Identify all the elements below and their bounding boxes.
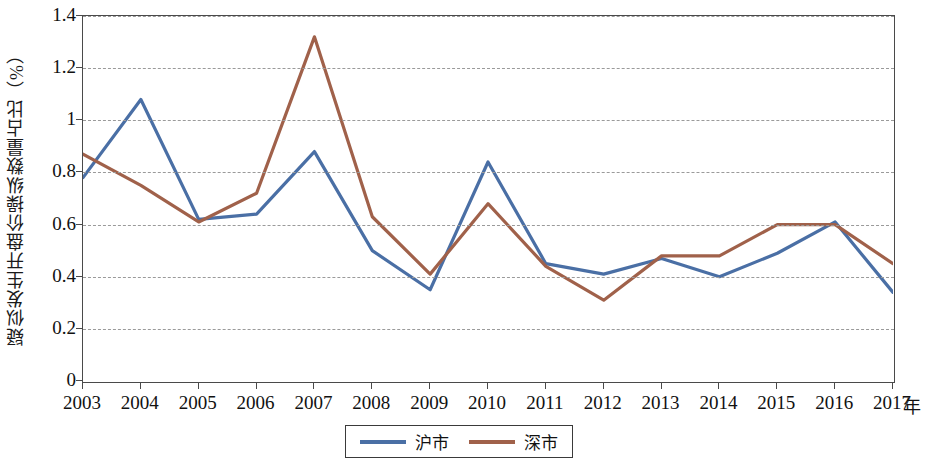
x-axis-tick-mark — [718, 383, 719, 389]
gridline — [83, 172, 894, 173]
gridline — [83, 16, 894, 17]
x-axis-unit-label: 年 — [903, 392, 921, 418]
y-axis-tick-label: 0.6 — [52, 213, 76, 235]
x-axis-tick-label: 2015 — [757, 392, 795, 414]
x-axis-tick-label: 2013 — [642, 392, 680, 414]
legend-item-label: 沪市 — [415, 429, 449, 454]
x-axis-tick-label: 2012 — [584, 392, 622, 414]
gridline — [83, 277, 894, 278]
x-axis-tick-label: 2006 — [237, 392, 275, 414]
series-line-深市 — [83, 37, 893, 300]
x-axis-tick-mark — [603, 383, 604, 389]
x-axis-tick-mark — [776, 383, 777, 389]
gridline — [83, 120, 894, 121]
x-axis-tick-label: 2009 — [410, 392, 448, 414]
x-axis-tick-labels: 2003200420052006200720082009201020112012… — [82, 392, 895, 420]
x-axis-tick-label: 2003 — [63, 392, 101, 414]
legend-item-label: 深市 — [524, 429, 558, 454]
series-lines — [83, 16, 893, 381]
y-axis-tick-label: 1.2 — [52, 56, 76, 78]
gridline — [83, 225, 894, 226]
x-axis-tick-mark — [82, 383, 83, 389]
chart-legend: 沪市深市 — [345, 425, 573, 458]
x-axis-tick-mark — [256, 383, 257, 389]
x-axis-tick-mark — [892, 383, 893, 389]
x-axis-tick-label: 2010 — [468, 392, 506, 414]
legend-color-swatch — [360, 440, 406, 444]
x-axis-tick-label: 2008 — [352, 392, 390, 414]
y-axis-tick-label: 0.8 — [52, 160, 76, 182]
y-axis-tick-label: 0.4 — [52, 265, 76, 287]
x-axis-tick-mark — [313, 383, 314, 389]
gridline — [83, 68, 894, 69]
x-axis-tick-mark — [371, 383, 372, 389]
x-axis-tick-mark — [545, 383, 546, 389]
y-axis-tick-label: 1.4 — [52, 4, 76, 26]
x-axis-tick-mark — [834, 383, 835, 389]
x-axis-tick-label: 2016 — [815, 392, 853, 414]
legend-item-深市[interactable]: 深市 — [469, 429, 558, 454]
x-axis-tick-mark — [429, 383, 430, 389]
legend-color-swatch — [469, 440, 515, 444]
y-axis-tick-label: 0 — [67, 369, 77, 391]
legend-item-沪市[interactable]: 沪市 — [360, 429, 449, 454]
x-axis-tick-marks — [82, 383, 895, 390]
x-axis-tick-mark — [140, 383, 141, 389]
x-axis-tick-label: 2014 — [699, 392, 737, 414]
series-line-沪市 — [83, 99, 893, 292]
x-axis-tick-label: 2007 — [294, 392, 332, 414]
x-axis-tick-label: 2011 — [526, 392, 563, 414]
line-chart: 疑似发生开盘价操纵数量占比（%） 00.20.40.60.811.21.4 20… — [0, 0, 945, 462]
x-axis-tick-label: 2005 — [179, 392, 217, 414]
x-axis-tick-mark — [661, 383, 662, 389]
x-axis-tick-mark — [487, 383, 488, 389]
y-axis-tick-label: 0.2 — [52, 317, 76, 339]
plot-inner — [83, 16, 894, 382]
x-axis-tick-mark — [198, 383, 199, 389]
x-axis-tick-label: 2004 — [121, 392, 159, 414]
y-axis-tick-labels: 00.20.40.60.811.21.4 — [26, 15, 76, 383]
gridline — [83, 329, 894, 330]
plot-area — [82, 15, 895, 383]
y-axis-tick-label: 1 — [67, 108, 77, 130]
